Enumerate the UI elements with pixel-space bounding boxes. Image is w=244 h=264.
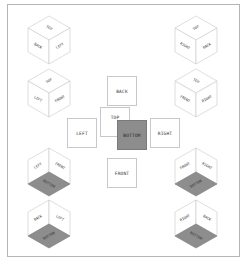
net-face-left: LEFT <box>67 118 97 148</box>
cube-top-right-2: TOP FRONT RIGHT <box>174 68 218 118</box>
net-face-front: FRONT <box>107 158 137 188</box>
cube-top-left-1: TOP BACK LEFT <box>27 15 71 65</box>
net-face-right: RIGHT <box>150 118 180 148</box>
cube-bottom-right-1: FRONT RIGHT BOTTOM <box>174 147 218 197</box>
cube-top-right-1: TOP RIGHT BACK <box>174 15 218 65</box>
net-face-bottom: BOTTOM <box>117 120 147 150</box>
net-face-back: BACK <box>107 76 137 106</box>
cube-bottom-left-1: LEFT FRONT BOTTOM <box>27 147 71 197</box>
cube-top-left-2: TOP LEFT FRONT <box>27 68 71 118</box>
cube-bottom-right-2: RIGHT BACK BOTTOM <box>174 199 218 249</box>
cube-bottom-left-2: BACK LEFT BOTTOM <box>27 199 71 249</box>
